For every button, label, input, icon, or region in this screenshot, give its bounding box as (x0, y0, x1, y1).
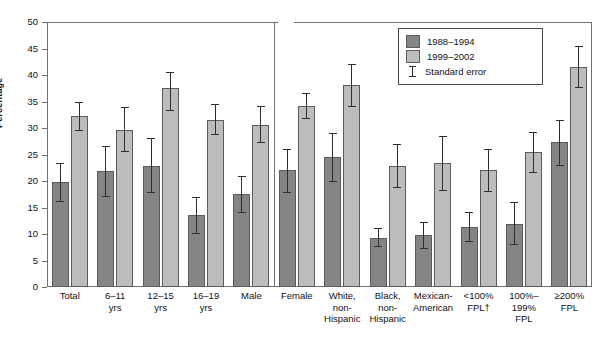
y-tick-label: 30 (27, 122, 38, 133)
bar (252, 125, 269, 287)
bar-slot (52, 22, 69, 287)
error-bar (105, 146, 106, 197)
error-bar (488, 149, 489, 192)
bar-slot (116, 22, 133, 287)
bar-slot (233, 22, 250, 287)
bar-slot (162, 22, 179, 287)
legend: 1988–1994 1999–2002 Standard error (398, 28, 543, 85)
y-axis-title: Percentage (0, 8, 4, 128)
bar (71, 116, 88, 287)
error-bar (533, 132, 534, 173)
swatch-light-icon (406, 50, 420, 63)
legend-label-0: 1988–1994 (427, 36, 475, 47)
bar-group (138, 22, 183, 287)
error-bar (559, 120, 560, 167)
error-bar (215, 104, 216, 135)
bar-slot (279, 22, 296, 287)
legend-item-standard-error: Standard error (406, 64, 535, 79)
bar-chart: Percentage 50454035302520151050 Total6–1… (0, 0, 613, 339)
x-axis-labels: Total6–11 yrs12–15 yrs16–19 yrsMaleFemal… (47, 290, 592, 325)
y-tick-label: 10 (27, 228, 38, 239)
error-bar (578, 46, 579, 87)
error-bar (124, 107, 125, 152)
error-bar (442, 136, 443, 191)
error-bar (397, 144, 398, 187)
bar-slot (143, 22, 160, 287)
bar (343, 85, 360, 287)
error-bar (151, 138, 152, 193)
bar-slot (97, 22, 114, 287)
bar (116, 130, 133, 287)
x-axis-label: 12–15 yrs (138, 290, 183, 325)
x-axis-label: Female (274, 290, 319, 325)
legend-label-2: Standard error (425, 66, 486, 77)
error-bar (170, 72, 171, 111)
error-bar (260, 106, 261, 144)
y-tick-mark (42, 287, 47, 288)
error-bar (241, 176, 242, 213)
legend-item-series-0: 1988–1994 (406, 34, 535, 49)
bar-slot (551, 22, 568, 287)
bar-group (92, 22, 137, 287)
bar-group (229, 22, 274, 287)
error-bar (332, 133, 333, 182)
bar-slot (343, 22, 360, 287)
x-axis-label: 16–19 yrs (183, 290, 228, 325)
bar-slot (71, 22, 88, 287)
bar-group (547, 22, 592, 287)
y-tick-label: 0 (33, 281, 38, 292)
error-bar (306, 93, 307, 119)
x-axis-label: 6–11 yrs (92, 290, 137, 325)
y-tick-label: 15 (27, 202, 38, 213)
error-bar (79, 102, 80, 131)
error-bar (287, 149, 288, 193)
error-bar (514, 202, 515, 244)
y-tick-label: 5 (33, 255, 38, 266)
bar (162, 88, 179, 287)
error-bar (196, 197, 197, 234)
bar (207, 120, 224, 287)
y-tick-label: 35 (27, 96, 38, 107)
bar-slot (324, 22, 341, 287)
error-bar (60, 163, 61, 202)
bar-slot (370, 22, 387, 287)
bar (298, 106, 315, 287)
y-tick-label: 45 (27, 43, 38, 54)
bar-group (47, 22, 92, 287)
error-bar-icon (406, 66, 418, 77)
x-axis-label: Black, non- Hispanic (365, 290, 410, 325)
bar-group (274, 22, 319, 287)
error-bar (469, 212, 470, 242)
x-axis-label: ≥200% FPL (547, 290, 592, 325)
bar-slot (207, 22, 224, 287)
bar-slot (298, 22, 315, 287)
y-tick-label: 40 (27, 69, 38, 80)
x-axis-label: White, non- Hispanic (320, 290, 365, 325)
error-bar (351, 64, 352, 107)
legend-label-1: 1999–2002 (427, 51, 475, 62)
y-tick-label: 50 (27, 16, 38, 27)
bar-slot (252, 22, 269, 287)
x-axis-label: Mexican- American (410, 290, 455, 325)
error-bar (423, 222, 424, 249)
x-axis-label: Total (47, 290, 92, 325)
x-axis-label: 100%–199% FPL (501, 290, 546, 325)
swatch-dark-icon (406, 35, 420, 48)
error-bar (378, 228, 379, 248)
y-tick-label: 20 (27, 175, 38, 186)
legend-item-series-1: 1999–2002 (406, 49, 535, 64)
bar (570, 67, 587, 287)
bar-group (320, 22, 365, 287)
bar-group (183, 22, 228, 287)
y-tick-label: 25 (27, 149, 38, 160)
x-axis-label: Male (229, 290, 274, 325)
bar-slot (188, 22, 205, 287)
x-axis-label: <100% FPL† (456, 290, 501, 325)
bar-slot (570, 22, 587, 287)
